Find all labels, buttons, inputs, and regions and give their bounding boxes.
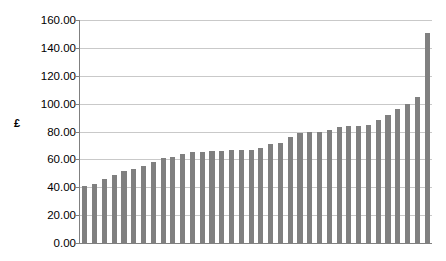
y-axis-tick-mark <box>75 76 79 77</box>
y-axis-tick-label: 80.00 <box>0 126 76 137</box>
bar <box>346 126 351 243</box>
bar <box>229 150 234 243</box>
bar <box>356 126 361 243</box>
y-axis-tick-label: 60.00 <box>0 154 76 165</box>
bar <box>337 127 342 243</box>
bar <box>161 158 166 243</box>
bar <box>405 104 410 243</box>
bar <box>102 179 107 243</box>
bar <box>278 143 283 243</box>
y-axis-tick-label: 20.00 <box>0 210 76 221</box>
y-axis-tick-label: 120.00 <box>0 70 76 81</box>
bar <box>170 157 175 243</box>
bar <box>151 162 156 243</box>
bar <box>190 152 195 243</box>
bar <box>415 97 420 243</box>
bar <box>258 148 263 243</box>
bars-series <box>80 20 432 244</box>
bar <box>121 171 126 243</box>
bar <box>219 151 224 243</box>
bar <box>131 169 136 243</box>
bar <box>92 184 97 243</box>
bar <box>327 130 332 243</box>
y-axis-tick-label: 100.00 <box>0 98 76 109</box>
bar <box>82 186 87 243</box>
y-axis-tick-labels: 0.0020.0040.0060.0080.00100.00120.00140.… <box>0 0 76 261</box>
bar <box>180 154 185 243</box>
bar <box>112 175 117 243</box>
y-axis-tick-mark <box>75 48 79 49</box>
bar <box>366 125 371 243</box>
y-axis-tick-mark <box>75 215 79 216</box>
bar <box>288 137 293 243</box>
y-axis-tick-label: 0.00 <box>0 238 76 249</box>
y-axis-tick-label: 160.00 <box>0 15 76 26</box>
bar <box>395 109 400 243</box>
bar <box>209 151 214 243</box>
y-axis-tick-mark <box>75 104 79 105</box>
y-axis-tick-mark <box>75 132 79 133</box>
y-axis-tick-label: 140.00 <box>0 42 76 53</box>
bar-chart: £ 0.0020.0040.0060.0080.00100.00120.0014… <box>0 0 446 261</box>
bar <box>268 144 273 243</box>
y-axis-tick-mark <box>75 187 79 188</box>
y-axis-tick-mark <box>75 159 79 160</box>
bar <box>376 120 381 243</box>
plot-area <box>79 20 432 244</box>
y-axis-tick-label: 40.00 <box>0 182 76 193</box>
bar <box>249 150 254 243</box>
bar <box>297 133 302 243</box>
bar <box>317 132 322 244</box>
y-axis-tick-mark <box>75 20 79 21</box>
bar <box>307 132 312 244</box>
y-axis-tick-mark <box>75 243 79 244</box>
bar <box>385 115 390 243</box>
bar <box>425 33 430 243</box>
bar <box>239 150 244 243</box>
bar <box>200 152 205 243</box>
bar <box>141 166 146 243</box>
